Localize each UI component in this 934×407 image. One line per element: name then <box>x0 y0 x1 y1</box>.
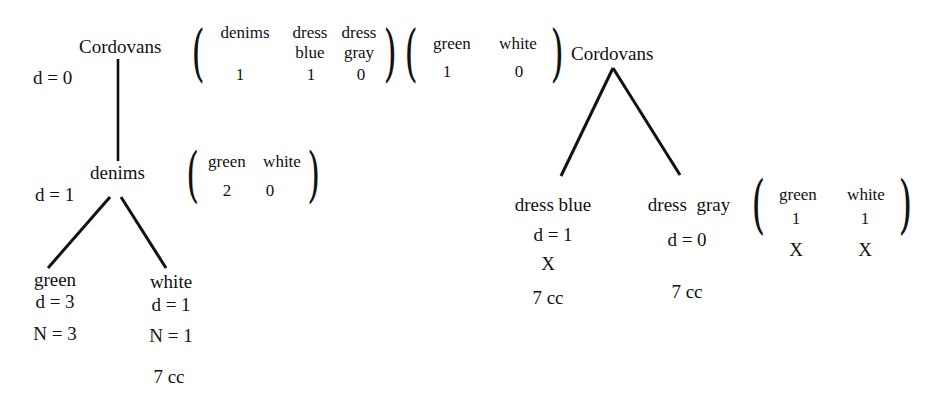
depth-label-root: d = 0 <box>33 68 72 87</box>
matrix-mark: X <box>781 240 811 259</box>
leaf-depth: d = 3 <box>20 292 90 311</box>
right-paren: ) <box>383 22 396 84</box>
node-denims: denims <box>90 163 145 182</box>
node-cordovans-left: Cordovans <box>79 37 161 56</box>
matrix-header: green <box>424 35 480 52</box>
node-cost: 7 cc <box>634 282 740 301</box>
node-label: dress gray <box>634 195 744 214</box>
left-paren: ( <box>404 22 417 84</box>
edge-cordovans-dressblue <box>561 68 613 176</box>
right-paren: ) <box>307 144 320 204</box>
matrix-value: 0 <box>346 66 376 83</box>
left-paren: ( <box>191 22 204 84</box>
node-depth: d = 1 <box>500 225 606 244</box>
matrix-header: white <box>490 35 546 52</box>
node-cost: 7 cc <box>500 288 596 307</box>
leaf-cost: 7 cc <box>134 367 204 386</box>
matrix-header: green <box>768 186 828 203</box>
right-paren: ) <box>899 172 913 236</box>
matrix-value: 1 <box>781 210 811 227</box>
matrix-value: 2 <box>212 182 242 199</box>
node-mark: X <box>500 254 596 273</box>
matrix-value: 1 <box>432 63 462 80</box>
matrix-header: white <box>258 153 306 170</box>
matrix-value: 0 <box>504 63 534 80</box>
matrix-header: white <box>838 186 894 203</box>
matrix-value: 0 <box>255 182 285 199</box>
right-paren: ) <box>550 22 563 84</box>
matrix-value: 1 <box>296 66 326 83</box>
edge-denims-white <box>121 197 166 268</box>
leaf-label: green <box>20 270 90 289</box>
leaf-label: white <box>136 272 206 291</box>
matrix-value: 1 <box>225 66 255 83</box>
node-cordovans-right: Cordovans <box>571 44 653 63</box>
matrix-header: dress <box>336 24 382 41</box>
matrix-header: blue <box>287 44 333 61</box>
matrix-header: denims <box>210 24 280 41</box>
matrix-header: gray <box>336 44 382 61</box>
depth-label-denims: d = 1 <box>35 185 74 204</box>
edge-denims-green <box>48 197 110 268</box>
left-paren: ( <box>752 172 766 236</box>
node-depth: d = 0 <box>634 230 740 249</box>
leaf-depth: d = 1 <box>136 295 206 314</box>
matrix-header: dress <box>287 24 333 41</box>
matrix-value: 1 <box>850 210 880 227</box>
left-paren: ( <box>186 144 199 204</box>
leaf-n: N = 1 <box>136 326 206 345</box>
matrix-mark: X <box>850 240 880 259</box>
matrix-header: green <box>203 153 251 170</box>
node-label: dress blue <box>500 195 606 214</box>
edge-cordovans-dressgray <box>613 68 680 175</box>
leaf-n: N = 3 <box>20 324 90 343</box>
